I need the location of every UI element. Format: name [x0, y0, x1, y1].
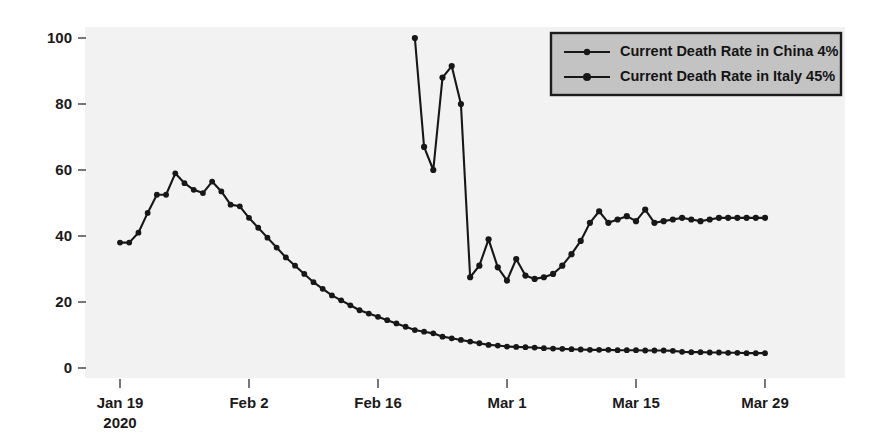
data-point-marker [753, 215, 759, 221]
data-point-marker [495, 264, 501, 270]
data-point-marker [347, 302, 353, 308]
data-point-marker [697, 218, 703, 224]
data-point-marker [421, 144, 427, 150]
data-point-marker [209, 179, 215, 185]
data-point-marker [449, 63, 455, 69]
x-axis-tick-label: Mar 1 [487, 394, 526, 411]
data-point-marker [707, 216, 713, 222]
data-point-marker [651, 220, 657, 226]
chart-container: 020406080100 Jan 192020Feb 2Feb 16Mar 1M… [0, 0, 888, 446]
data-point-marker [541, 274, 547, 280]
data-point-marker [596, 208, 602, 214]
data-point-marker [449, 335, 455, 341]
data-point-marker [707, 350, 713, 356]
legend-swatch-marker [583, 73, 591, 81]
data-point-marker [688, 349, 694, 355]
data-point-marker [753, 350, 759, 356]
legend-entry-label: Current Death Rate in Italy 45% [620, 68, 835, 84]
data-point-marker [485, 236, 491, 242]
data-point-marker [421, 329, 427, 335]
data-point-marker [688, 216, 694, 222]
data-point-marker [172, 170, 178, 176]
data-point-marker [228, 202, 234, 208]
data-point-marker [652, 348, 658, 354]
data-point-marker [513, 344, 519, 350]
y-axis-tick-group: 020406080100 [47, 29, 86, 376]
data-point-marker [191, 187, 197, 193]
data-point-marker [366, 311, 372, 317]
data-point-marker [467, 339, 473, 345]
data-point-marker [743, 215, 749, 221]
data-point-marker [559, 346, 565, 352]
x-axis-tick-label: Mar 29 [741, 394, 789, 411]
data-point-marker [587, 220, 593, 226]
data-point-marker [578, 238, 584, 244]
data-point-marker [504, 344, 510, 350]
data-point-marker [412, 327, 418, 333]
data-point-marker [274, 245, 280, 251]
data-point-marker [523, 344, 529, 350]
line-chart: 020406080100 Jan 192020Feb 2Feb 16Mar 1M… [0, 0, 888, 446]
data-point-marker [532, 345, 538, 351]
data-point-marker [550, 346, 556, 352]
data-point-marker [403, 324, 409, 330]
data-point-marker [301, 271, 307, 277]
data-point-marker [412, 35, 418, 41]
data-point-marker [246, 215, 252, 221]
data-point-marker [476, 263, 482, 269]
data-point-marker [283, 255, 289, 261]
data-point-marker [596, 347, 602, 353]
data-point-marker [614, 216, 620, 222]
data-point-marker [550, 271, 556, 277]
data-point-marker [154, 192, 160, 198]
data-point-marker [698, 349, 704, 355]
data-point-marker [329, 293, 335, 299]
data-point-marker [615, 347, 621, 353]
y-axis-tick-label: 40 [55, 227, 72, 244]
data-point-marker [458, 101, 464, 107]
data-point-marker [394, 321, 400, 327]
data-point-marker [661, 218, 667, 224]
data-point-marker [679, 215, 685, 221]
x-axis-tick-label: Jan 19 [97, 394, 144, 411]
data-point-marker [762, 350, 768, 356]
data-point-marker [430, 330, 436, 336]
x-axis-tick-sublabel: 2020 [103, 414, 136, 431]
data-point-marker [605, 347, 611, 353]
legend-swatch-marker [584, 49, 590, 55]
data-point-marker [265, 235, 271, 241]
chart-legend[interactable]: Current Death Rate in China 4%Current De… [551, 33, 841, 95]
data-point-marker [486, 342, 492, 348]
data-point-marker [578, 347, 584, 353]
data-point-marker [357, 307, 363, 313]
data-point-marker [642, 348, 648, 354]
data-point-marker [725, 215, 731, 221]
legend-entry-label: Current Death Rate in China 4% [620, 43, 838, 59]
data-point-marker [569, 346, 575, 352]
data-point-marker [218, 189, 224, 195]
data-point-marker [716, 215, 722, 221]
data-point-marker [458, 337, 464, 343]
data-point-marker [725, 350, 731, 356]
data-point-marker [587, 347, 593, 353]
data-point-marker [670, 348, 676, 354]
x-axis-tick-label: Mar 15 [612, 394, 660, 411]
x-axis-tick-label: Feb 2 [229, 394, 268, 411]
y-axis-tick-label: 80 [55, 95, 72, 112]
data-point-marker [440, 334, 446, 340]
data-point-marker [624, 213, 630, 219]
data-point-marker [136, 230, 142, 236]
data-point-marker [467, 274, 473, 280]
data-point-marker [430, 167, 436, 173]
x-axis-tick-group: Jan 192020Feb 2Feb 16Mar 1Mar 15Mar 29 [97, 379, 789, 431]
data-point-marker [661, 348, 667, 354]
y-axis-tick-label: 20 [55, 293, 72, 310]
data-point-marker [541, 345, 547, 351]
data-point-marker [762, 215, 768, 221]
data-point-marker [744, 350, 750, 356]
data-point-marker [255, 225, 261, 231]
data-point-marker [633, 347, 639, 353]
data-point-marker [182, 180, 188, 186]
y-axis-tick-label: 100 [47, 29, 72, 46]
data-point-marker [311, 279, 317, 285]
